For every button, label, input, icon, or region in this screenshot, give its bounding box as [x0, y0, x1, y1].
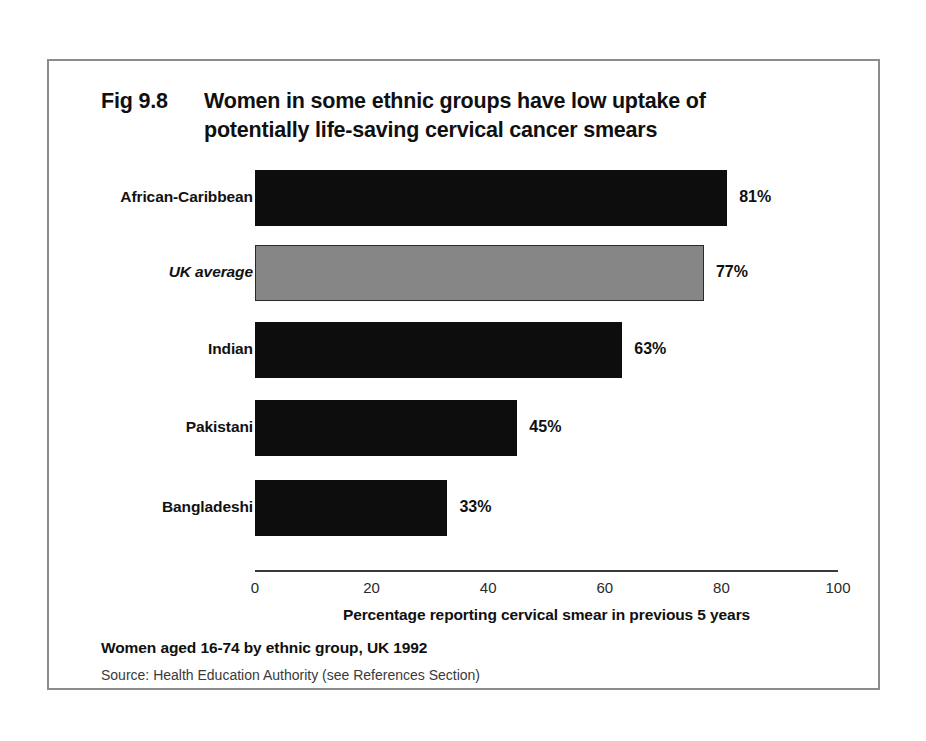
bar — [255, 400, 517, 456]
category-label: African-Caribbean — [120, 188, 253, 206]
figure-footnote: Women aged 16-74 by ethnic group, UK 199… — [101, 639, 427, 657]
x-axis-line — [255, 570, 838, 572]
bar-value-label: 63% — [634, 340, 666, 358]
x-tick-label: 0 — [225, 579, 285, 596]
category-label: Bangladeshi — [162, 498, 253, 516]
category-label: Indian — [208, 340, 253, 358]
x-tick-label: 100 — [808, 579, 868, 596]
bar — [255, 170, 727, 226]
x-axis-title: Percentage reporting cervical smear in p… — [255, 606, 838, 624]
bar-value-label: 77% — [716, 263, 748, 281]
bar-value-label: 81% — [739, 188, 771, 206]
bar-row: Pakistani45% — [49, 400, 882, 456]
bar — [255, 480, 447, 536]
plot-area: African-Caribbean81%UK average77%Indian6… — [49, 61, 882, 692]
category-label: UK average — [169, 263, 253, 281]
x-tick-label: 40 — [458, 579, 518, 596]
category-label: Pakistani — [186, 418, 253, 436]
bar-value-label: 45% — [529, 418, 561, 436]
x-tick-label: 20 — [342, 579, 402, 596]
x-tick-label: 80 — [691, 579, 751, 596]
bar — [255, 245, 704, 301]
bar-row: African-Caribbean81% — [49, 170, 882, 226]
figure-frame: Fig 9.8Women in some ethnic groups have … — [47, 59, 880, 690]
figure-source: Source: Health Education Authority (see … — [101, 667, 480, 683]
bar-row: UK average77% — [49, 245, 882, 301]
x-tick-label: 60 — [575, 579, 635, 596]
bar-row: Bangladeshi33% — [49, 480, 882, 536]
bar-value-label: 33% — [459, 498, 491, 516]
bar — [255, 322, 622, 378]
bar-row: Indian63% — [49, 322, 882, 378]
